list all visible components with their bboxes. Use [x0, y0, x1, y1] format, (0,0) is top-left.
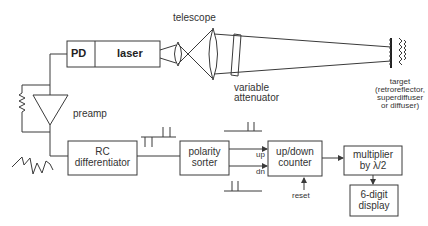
preamp-label: preamp	[73, 108, 107, 119]
display-label-1: 6-digit	[350, 189, 398, 200]
dn-label: dn	[256, 167, 265, 176]
rc-label-2: differentiator	[68, 157, 137, 168]
polarity-label-2: sorter	[180, 157, 229, 168]
rc-label-1: RC	[68, 146, 137, 157]
variable-attenuator-icon	[231, 34, 241, 76]
telescope-icon	[160, 28, 218, 80]
pd-label: PD	[71, 48, 86, 59]
up-label: up	[256, 150, 265, 159]
telescope-label: telescope	[173, 12, 216, 23]
positive-pulses-icon	[224, 122, 262, 131]
target-icon	[389, 38, 406, 68]
multiplier-label-2: by λ/2	[344, 160, 402, 171]
negative-pulses-icon	[224, 181, 262, 191]
reset-label: reset	[292, 191, 310, 200]
sawtooth-waveform-icon	[12, 157, 53, 174]
variable-attenuator-label-2: attenuator	[234, 92, 279, 103]
laser-label: laser	[117, 48, 143, 59]
target-label-4: or diffuser)	[372, 101, 428, 110]
bipolar-pulses-icon	[141, 127, 176, 147]
counter-label-2: counter	[268, 157, 322, 168]
multiplier-label-1: multiplier	[344, 149, 402, 160]
display-label-2: display	[350, 200, 398, 211]
counter-label-1: up/down	[268, 146, 322, 157]
polarity-label-1: polarity	[180, 146, 229, 157]
pd-preamp-wire	[50, 54, 67, 95]
preamp-icon	[19, 85, 68, 156]
